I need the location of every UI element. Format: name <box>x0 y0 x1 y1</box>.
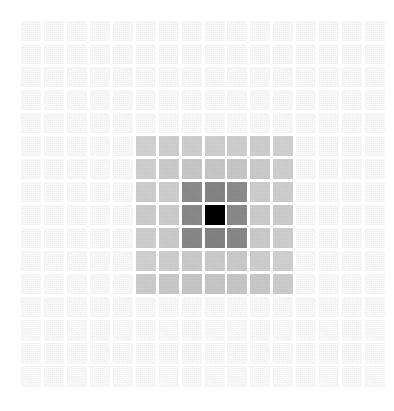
heatmap-cell <box>250 44 270 64</box>
heatmap-cell <box>113 343 133 363</box>
heatmap-cell <box>113 251 133 271</box>
heatmap-cell <box>296 297 316 317</box>
heatmap-cell <box>159 297 179 317</box>
heatmap-cell <box>227 320 247 340</box>
heatmap-cell <box>113 113 133 133</box>
heatmap-cell <box>319 205 339 225</box>
heatmap-cell <box>273 159 293 179</box>
heatmap-cell <box>21 90 41 110</box>
heatmap-cell <box>136 44 156 64</box>
heatmap-cell <box>90 343 110 363</box>
heatmap-cell <box>67 251 87 271</box>
heatmap-cell <box>319 297 339 317</box>
heatmap-cell <box>273 320 293 340</box>
heatmap-cell <box>205 251 225 271</box>
heatmap-cell <box>159 136 179 156</box>
heatmap-cell <box>296 228 316 248</box>
heatmap-cell <box>21 343 41 363</box>
heatmap-cell <box>296 251 316 271</box>
heatmap-cell <box>90 21 110 41</box>
heatmap-cell <box>250 343 270 363</box>
heatmap-cell <box>273 182 293 202</box>
heatmap-cell <box>182 21 202 41</box>
heatmap-cell <box>342 343 362 363</box>
heatmap-cell <box>136 343 156 363</box>
heatmap-cell <box>296 274 316 294</box>
heatmap-cell <box>365 205 385 225</box>
heatmap-cell <box>227 113 247 133</box>
heatmap-cell <box>227 343 247 363</box>
heatmap-cell <box>273 136 293 156</box>
heatmap-cell <box>342 136 362 156</box>
heatmap-cell <box>205 297 225 317</box>
heatmap-cell <box>273 113 293 133</box>
heatmap-cell <box>319 44 339 64</box>
heatmap-cell <box>159 113 179 133</box>
heatmap-cell <box>250 182 270 202</box>
heatmap-cell <box>227 136 247 156</box>
heatmap-cell <box>159 67 179 87</box>
heatmap-cell <box>273 67 293 87</box>
heatmap-cell <box>90 228 110 248</box>
heatmap-cell <box>182 297 202 317</box>
heatmap-cell <box>273 366 293 386</box>
heatmap-cell <box>205 366 225 386</box>
heatmap-cell <box>44 21 64 41</box>
heatmap-cell <box>227 205 247 225</box>
heatmap-cell <box>227 21 247 41</box>
heatmap-cell <box>296 21 316 41</box>
heatmap-cell <box>44 113 64 133</box>
heatmap-cell <box>342 159 362 179</box>
heatmap-cell <box>136 159 156 179</box>
heatmap-cell <box>136 228 156 248</box>
heatmap-cell <box>67 44 87 64</box>
heatmap-cell <box>90 44 110 64</box>
heatmap-cell <box>113 90 133 110</box>
heatmap-cell <box>90 205 110 225</box>
heatmap-cell <box>136 90 156 110</box>
heatmap-cell <box>273 297 293 317</box>
heatmap-cell <box>227 274 247 294</box>
heatmap-cell <box>44 228 64 248</box>
heatmap-cell <box>136 67 156 87</box>
heatmap-cell <box>342 228 362 248</box>
heatmap-cell <box>250 205 270 225</box>
heatmap-cell <box>67 21 87 41</box>
heatmap-cell <box>182 113 202 133</box>
heatmap-cell <box>296 366 316 386</box>
heatmap-cell <box>250 297 270 317</box>
heatmap-cell <box>113 67 133 87</box>
heatmap-cell <box>21 297 41 317</box>
heatmap-cell <box>67 182 87 202</box>
heatmap-cell <box>227 228 247 248</box>
heatmap-cell <box>136 136 156 156</box>
heatmap-cell <box>273 274 293 294</box>
heatmap-cell <box>113 159 133 179</box>
heatmap-cell <box>250 251 270 271</box>
heatmap-cell <box>342 90 362 110</box>
heatmap-cell <box>21 44 41 64</box>
heatmap-cell <box>182 182 202 202</box>
heatmap-cell <box>296 159 316 179</box>
heatmap-cell <box>227 366 247 386</box>
heatmap-cell <box>44 320 64 340</box>
heatmap-cell <box>44 297 64 317</box>
heatmap-cell <box>250 320 270 340</box>
heatmap-cell <box>250 67 270 87</box>
heatmap-cell <box>113 205 133 225</box>
heatmap-cell <box>250 228 270 248</box>
heatmap-cell <box>342 251 362 271</box>
heatmap-cell <box>67 90 87 110</box>
heatmap-cell <box>21 320 41 340</box>
heatmap-cell <box>250 159 270 179</box>
heatmap-cell <box>90 274 110 294</box>
heatmap-cell <box>273 228 293 248</box>
heatmap-cell <box>159 44 179 64</box>
heatmap-cell <box>365 366 385 386</box>
heatmap-cell <box>365 182 385 202</box>
heatmap-cell <box>44 205 64 225</box>
heatmap-cell <box>273 90 293 110</box>
heatmap-cell <box>21 136 41 156</box>
heatmap-cell <box>159 90 179 110</box>
heatmap-cell <box>182 320 202 340</box>
